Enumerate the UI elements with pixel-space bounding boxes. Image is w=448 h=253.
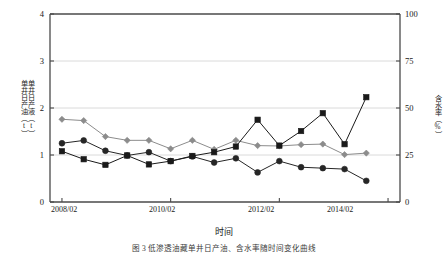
x-axis-title: 时间 bbox=[0, 225, 448, 238]
figure-caption: 图 3 低渗透油藏单井日产油、含水率随时间变化曲线 bbox=[0, 242, 448, 253]
